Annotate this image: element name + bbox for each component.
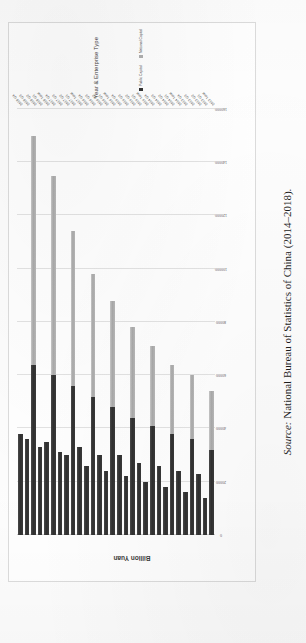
bar-segment-national (51, 176, 56, 376)
bar-row (170, 365, 175, 535)
bar-segment-national (31, 136, 36, 365)
bar-segment-national (170, 365, 175, 434)
bar-segment-public (71, 386, 76, 535)
bar-segment-national (71, 231, 76, 385)
value-axis-tick-label: 0 (212, 533, 230, 537)
bar-segment-public (163, 487, 168, 535)
bar-row (97, 455, 102, 535)
source-caption-label: Source: (281, 421, 293, 455)
bar-row (104, 471, 109, 535)
chart-rotation-wrapper: Billion Yuan Year & Enterprise Type Publ… (8, 22, 256, 582)
source-caption-wrapper: Source: National Bureau of Statistics of… (270, 0, 304, 643)
bar-segment-public (124, 476, 129, 535)
bar-row (157, 466, 162, 535)
gridline (17, 108, 215, 109)
bar-row (183, 492, 188, 535)
bar-segment-public (143, 482, 148, 535)
bar-segment-public (170, 434, 175, 535)
bar-row (190, 375, 195, 535)
bar-segment-public (117, 455, 122, 535)
gridline (17, 161, 215, 162)
value-axis-tick-label: 140000 (212, 160, 230, 164)
bar-segment-public (130, 418, 135, 535)
bar-row (124, 476, 129, 535)
plot-inner (17, 109, 215, 535)
bar-segment-public (77, 447, 82, 535)
bar-row (77, 447, 82, 535)
bar-row (130, 327, 135, 535)
bar-segment-public (176, 471, 181, 535)
bar-row (150, 346, 155, 535)
bar-segment-national (150, 346, 155, 426)
plot-area (17, 109, 215, 535)
bar-segment-public (110, 407, 115, 535)
bar-segment-public (196, 474, 201, 535)
bar-segment-public (51, 375, 56, 535)
bar-segment-public (44, 442, 49, 535)
legend-swatch-icon (139, 55, 142, 58)
bar-segment-national (130, 327, 135, 418)
legend-label: Public Capital (139, 65, 143, 86)
bar-row (58, 452, 63, 535)
gridline (17, 215, 215, 216)
bar-segment-public (183, 492, 188, 535)
bar-segment-public (64, 455, 69, 535)
bar-row (18, 434, 23, 535)
bar-row (84, 466, 89, 535)
bar-row (117, 455, 122, 535)
bar-segment-national (110, 301, 115, 408)
bar-segment-public (137, 463, 142, 535)
gridline (17, 321, 215, 322)
bar-row (25, 439, 30, 535)
value-axis-tick-label: 60000 (212, 373, 230, 377)
chart-legend: Public CapitalNational Capital (139, 29, 143, 91)
legend-swatch-icon (139, 88, 142, 91)
scanned-page: Billion Yuan Year & Enterprise Type Publ… (0, 0, 306, 643)
bar-segment-public (104, 471, 109, 535)
legend-label: National Capital (139, 29, 143, 53)
bar-row (71, 231, 76, 535)
value-axis-tick-label: 100000 (212, 267, 230, 271)
bar-row (64, 455, 69, 535)
bar-segment-public (31, 365, 36, 535)
gridline (17, 428, 215, 429)
bar-segment-national (209, 391, 214, 450)
value-axis-tick-label: 40000 (212, 427, 230, 431)
gridline (17, 374, 215, 375)
bar-row (176, 471, 181, 535)
chart-frame: Billion Yuan Year & Enterprise Type Publ… (8, 22, 256, 582)
bar-segment-public (97, 455, 102, 535)
bar-segment-national (190, 375, 195, 439)
value-axis-tick-label: 20000 (212, 480, 230, 484)
bar-row (31, 136, 36, 535)
legend-item: National Capital (139, 29, 143, 58)
bar-row (196, 474, 201, 535)
value-axis-tick-label: 120000 (212, 214, 230, 218)
source-caption-text: National Bureau of Statistics of China (… (281, 188, 293, 421)
bar-segment-public (38, 447, 43, 535)
bar-row (143, 482, 148, 535)
bar-segment-public (157, 466, 162, 535)
bar-segment-public (91, 397, 96, 535)
bar-segment-public (58, 452, 63, 535)
bar-row (203, 498, 208, 535)
bar-segment-public (18, 434, 23, 535)
gridline (17, 268, 215, 269)
source-caption: Source: National Bureau of Statistics of… (281, 188, 293, 455)
category-axis-title: Year & Enterprise Type (93, 37, 99, 98)
bar-segment-national (91, 274, 96, 396)
value-axis-title: Billion Yuan (113, 555, 150, 562)
bar-row (51, 176, 56, 535)
bar-segment-public (84, 466, 89, 535)
bar-row (163, 487, 168, 535)
value-axis-tick-label: 160000 (212, 107, 230, 111)
value-axis-tick-label: 80000 (212, 320, 230, 324)
bar-row (110, 301, 115, 535)
bar-segment-public (190, 439, 195, 535)
bar-row (137, 463, 142, 535)
bar-row (38, 447, 43, 535)
legend-item: Public Capital (139, 65, 143, 91)
bar-segment-public (203, 498, 208, 535)
bar-row (44, 442, 49, 535)
bar-segment-public (150, 426, 155, 535)
